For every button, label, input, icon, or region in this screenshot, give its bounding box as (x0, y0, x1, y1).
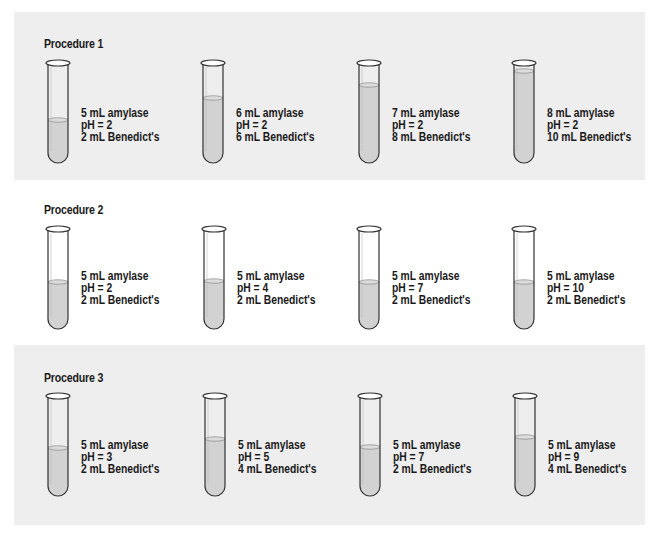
test-tube-item: 5 mL amylase pH = 7 2 mL Benedict's (356, 392, 506, 502)
benedicts-amount: 4 mL Benedict's (548, 463, 627, 475)
procedure-2-panel: Procedure 2 5 mL amylase pH = 2 2 mL Ben… (14, 180, 645, 345)
test-tube-icon (199, 59, 227, 165)
benedicts-amount: 2 mL Benedict's (547, 294, 626, 306)
benedicts-amount: 2 mL Benedict's (237, 294, 316, 306)
tube-label: 7 mL amylase pH = 2 8 mL Benedict's (392, 107, 471, 143)
test-tube-item: 6 mL amylase pH = 2 6 mL Benedict's (199, 59, 349, 169)
benedicts-amount: 2 mL Benedict's (393, 463, 472, 475)
test-tube-icon (200, 225, 228, 331)
test-tube-item: 5 mL amylase pH = 2 2 mL Benedict's (44, 225, 194, 335)
tube-label: 5 mL amylase pH = 7 2 mL Benedict's (393, 439, 472, 475)
test-tube-icon (44, 59, 72, 165)
procedure-3-title: Procedure 3 (44, 371, 103, 385)
benedicts-amount: 2 mL Benedict's (392, 294, 471, 306)
tube-label: 5 mL amylase pH = 5 4 mL Benedict's (238, 439, 317, 475)
test-tube-item: 5 mL amylase pH = 9 4 mL Benedict's (511, 392, 661, 502)
tube-label: 5 mL amylase pH = 3 2 mL Benedict's (81, 439, 160, 475)
tube-label: 5 mL amylase pH = 4 2 mL Benedict's (237, 270, 316, 306)
tube-label: 5 mL amylase pH = 2 2 mL Benedict's (81, 107, 160, 143)
benedicts-amount: 4 mL Benedict's (238, 463, 317, 475)
test-tube-icon (201, 392, 229, 498)
tube-label: 6 mL amylase pH = 2 6 mL Benedict's (236, 107, 315, 143)
test-tube-item: 8 mL amylase pH = 2 10 mL Benedict's (510, 59, 660, 169)
test-tube-icon (510, 225, 538, 331)
procedure-1-title: Procedure 1 (44, 37, 103, 51)
test-tube-item: 5 mL amylase pH = 4 2 mL Benedict's (200, 225, 350, 335)
test-tube-item: 7 mL amylase pH = 2 8 mL Benedict's (355, 59, 505, 169)
test-tube-item: 5 mL amylase pH = 5 4 mL Benedict's (201, 392, 351, 502)
test-tube-icon (355, 59, 383, 165)
tube-label: 5 mL amylase pH = 2 2 mL Benedict's (81, 270, 160, 306)
test-tube-icon (44, 392, 72, 498)
test-tube-icon (355, 225, 383, 331)
tube-label: 5 mL amylase pH = 7 2 mL Benedict's (392, 270, 471, 306)
procedure-1-panel: Procedure 1 5 mL amylase pH = 2 2 mL Ben… (14, 12, 645, 180)
test-tube-icon (511, 392, 539, 498)
procedure-3-panel: Procedure 3 5 mL amylase pH = 3 2 mL Ben… (14, 345, 645, 525)
test-tube-item: 5 mL amylase pH = 3 2 mL Benedict's (44, 392, 194, 502)
procedure-2-title: Procedure 2 (44, 203, 103, 217)
benedicts-amount: 2 mL Benedict's (81, 131, 160, 143)
benedicts-amount: 8 mL Benedict's (392, 131, 471, 143)
tube-label: 8 mL amylase pH = 2 10 mL Benedict's (547, 107, 631, 143)
tube-label: 5 mL amylase pH = 10 2 mL Benedict's (547, 270, 626, 306)
test-tube-icon (44, 225, 72, 331)
benedicts-amount: 2 mL Benedict's (81, 294, 160, 306)
test-tube-icon (510, 59, 538, 165)
test-tube-item: 5 mL amylase pH = 2 2 mL Benedict's (44, 59, 194, 169)
tube-label: 5 mL amylase pH = 9 4 mL Benedict's (548, 439, 627, 475)
benedicts-amount: 10 mL Benedict's (547, 131, 631, 143)
test-tube-item: 5 mL amylase pH = 10 2 mL Benedict's (510, 225, 660, 335)
test-tube-item: 5 mL amylase pH = 7 2 mL Benedict's (355, 225, 505, 335)
benedicts-amount: 2 mL Benedict's (81, 463, 160, 475)
test-tube-icon (356, 392, 384, 498)
benedicts-amount: 6 mL Benedict's (236, 131, 315, 143)
